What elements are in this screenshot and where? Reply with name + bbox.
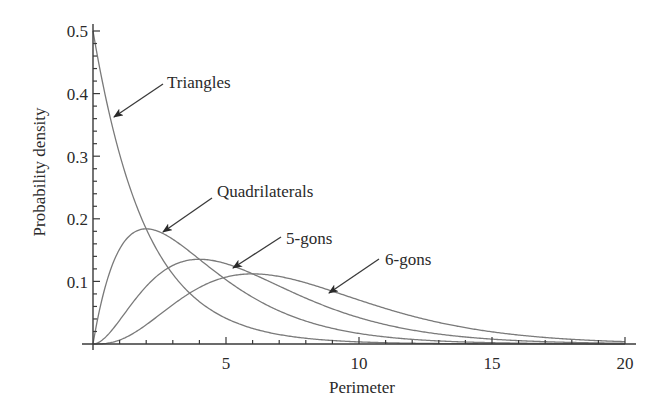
arrow-icon [233, 237, 281, 268]
arrow-icon [114, 84, 163, 117]
annotation-triangles: Triangles [114, 73, 231, 117]
x-tick-label-20: 20 [617, 354, 634, 373]
quadrilaterals-label: Quadrilaterals [217, 182, 313, 201]
annotation-hexagons: 6-gons [329, 250, 431, 293]
hexagons-label: 6-gons [385, 250, 431, 269]
y-tick-label-0.5: 0.5 [67, 22, 88, 41]
probability-density-chart: 5 10 15 20 0.1 0.2 0.3 0.4 0.5 Perimeter… [0, 0, 669, 419]
y-tick-label-0.2: 0.2 [67, 210, 88, 229]
annotation-quadrilaterals: Quadrilaterals [163, 182, 313, 232]
y-tick-label-0.1: 0.1 [67, 273, 88, 292]
annotation-pentagons: 5-gons [233, 229, 332, 268]
x-tick-label-5: 5 [222, 354, 231, 373]
quadrilaterals-curve [93, 229, 625, 344]
y-tick-label-0.3: 0.3 [67, 148, 88, 167]
y-tick-label-0.4: 0.4 [67, 85, 89, 104]
pentagons-label: 5-gons [286, 229, 332, 248]
x-tick-label-10: 10 [351, 354, 368, 373]
x-axis-title: Perimeter [329, 378, 395, 397]
arrow-icon [329, 259, 379, 293]
y-axis-title: Probability density [30, 107, 49, 236]
y-ticks [93, 31, 100, 331]
triangles-label: Triangles [167, 73, 231, 92]
arrow-icon [163, 198, 212, 232]
x-tick-label-15: 15 [484, 354, 501, 373]
